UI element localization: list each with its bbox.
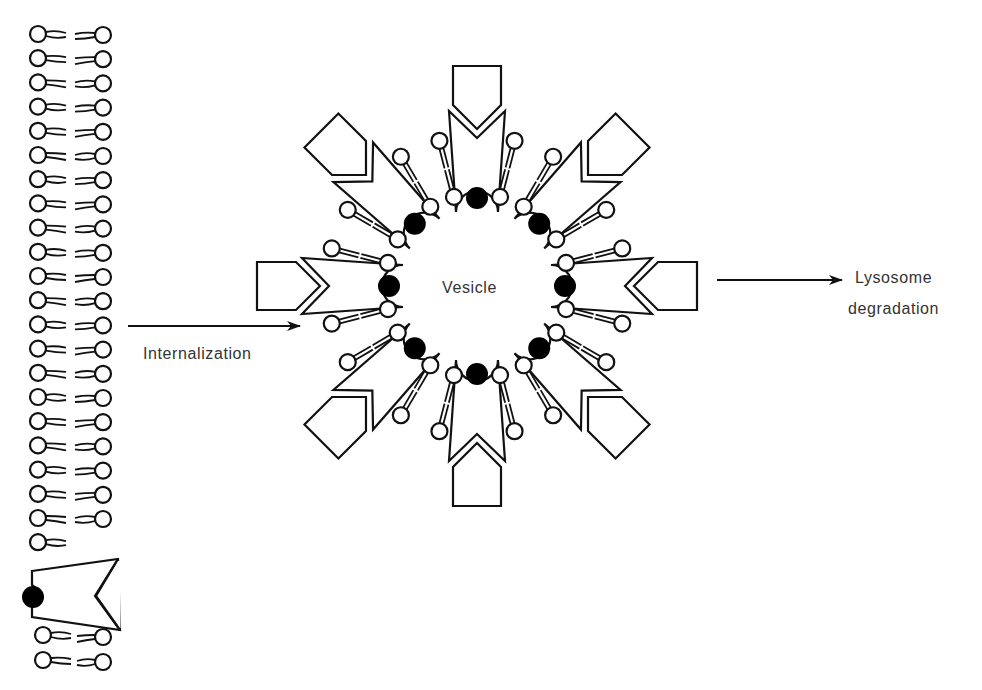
phospholipid bbox=[30, 462, 66, 478]
phospholipid bbox=[75, 414, 111, 430]
pentagon-ligand bbox=[453, 66, 501, 129]
phospholipid bbox=[35, 652, 71, 668]
phospholipid bbox=[75, 172, 111, 188]
degradation-label: degradation bbox=[848, 300, 939, 318]
phospholipid bbox=[75, 390, 111, 406]
phospholipid bbox=[30, 316, 66, 332]
phospholipid bbox=[75, 269, 111, 285]
ligand-dot bbox=[466, 363, 488, 385]
phospholipid bbox=[30, 365, 66, 381]
pentagon-ligand bbox=[634, 262, 697, 310]
phospholipid bbox=[431, 133, 448, 169]
vesicle-receptor-unit bbox=[302, 111, 445, 254]
phospholipid bbox=[75, 511, 111, 527]
pentagon-ligand bbox=[304, 113, 382, 191]
vesicle-label: Vesicle bbox=[442, 279, 497, 297]
plasma-membrane-bilayer bbox=[22, 26, 120, 670]
phospholipid bbox=[30, 389, 66, 405]
phospholipid bbox=[75, 342, 111, 358]
phospholipid bbox=[30, 26, 66, 42]
pentagon-ligand bbox=[453, 443, 501, 506]
phospholipid bbox=[75, 221, 111, 237]
vesicle-receptor-unit bbox=[302, 319, 445, 462]
pentagon-ligand bbox=[571, 380, 649, 458]
phospholipid bbox=[595, 315, 631, 332]
phospholipid bbox=[75, 148, 111, 164]
membrane-receptor bbox=[22, 559, 120, 630]
phospholipid bbox=[35, 627, 71, 643]
phospholipid bbox=[75, 245, 111, 261]
phospholipid bbox=[75, 293, 111, 309]
ligand-dot bbox=[554, 275, 576, 297]
phospholipid bbox=[595, 240, 631, 257]
phospholipid bbox=[30, 147, 66, 163]
vesicle-receptor-unit bbox=[510, 111, 653, 254]
phospholipid bbox=[324, 315, 360, 332]
phospholipid bbox=[75, 317, 111, 333]
phospholipid bbox=[75, 438, 111, 454]
phospholipid bbox=[75, 124, 111, 140]
phospholipid bbox=[506, 404, 523, 440]
phospholipid bbox=[75, 487, 111, 503]
phospholipid bbox=[506, 133, 523, 169]
phospholipid bbox=[77, 629, 111, 645]
pentagon-ligand bbox=[257, 262, 320, 310]
phospholipid bbox=[30, 413, 66, 429]
vesicle-receptor-unit bbox=[510, 319, 653, 462]
phospholipid bbox=[30, 341, 66, 357]
phospholipid bbox=[77, 654, 111, 670]
phospholipid bbox=[75, 51, 111, 67]
phospholipid bbox=[30, 50, 66, 66]
internalization-label: Internalization bbox=[143, 345, 252, 363]
phospholipid bbox=[75, 463, 111, 479]
phospholipid bbox=[30, 171, 66, 187]
phospholipid bbox=[30, 486, 66, 502]
phospholipid bbox=[431, 404, 448, 440]
phospholipid bbox=[75, 196, 111, 212]
ligand-dot bbox=[466, 187, 488, 209]
phospholipid bbox=[30, 220, 66, 236]
phospholipid bbox=[30, 195, 66, 211]
ligand-dot bbox=[22, 586, 44, 608]
pentagon-ligand bbox=[571, 113, 649, 191]
phospholipid bbox=[30, 534, 66, 550]
phospholipid bbox=[75, 27, 111, 43]
pentagon-ligand bbox=[304, 380, 382, 458]
lysosome-label: Lysosome bbox=[855, 269, 932, 287]
phospholipid bbox=[30, 292, 66, 308]
phospholipid bbox=[30, 74, 66, 90]
phospholipid bbox=[30, 510, 66, 526]
phospholipid bbox=[30, 244, 66, 260]
phospholipid bbox=[30, 268, 66, 284]
phospholipid bbox=[75, 366, 111, 382]
ligand-dot bbox=[378, 275, 400, 297]
phospholipid bbox=[30, 99, 66, 115]
phospholipid bbox=[30, 123, 66, 139]
phospholipid bbox=[75, 75, 111, 91]
phospholipid bbox=[324, 240, 360, 257]
phospholipid bbox=[30, 437, 66, 453]
phospholipid bbox=[75, 100, 111, 116]
